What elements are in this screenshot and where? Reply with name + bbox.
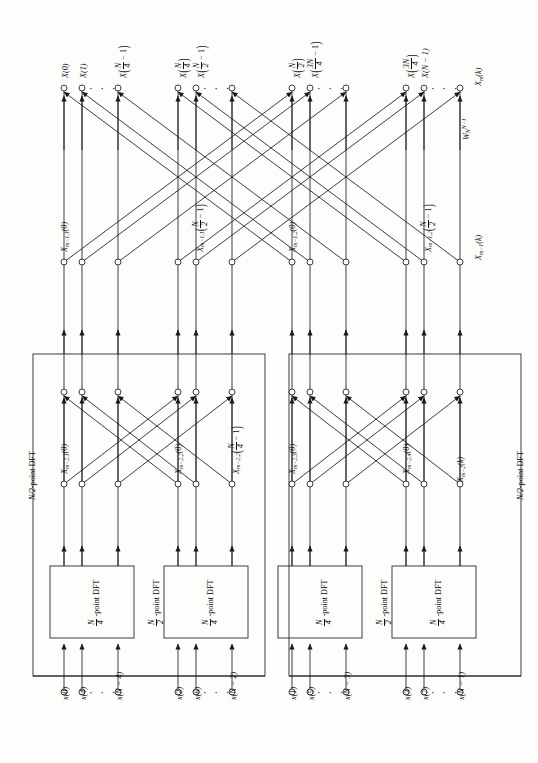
fft-flow-graph-figure: · · · · · · · · · · · · · · · · · · · · …	[0, 0, 538, 763]
ellipsis-input-3: · · ·	[317, 686, 346, 698]
quarter-dft-label-1: N4 -point DFT	[88, 579, 106, 626]
twiddle-label: WNN−1	[461, 118, 471, 140]
stage-m2-label-c: Xm−2,2(N4 − 1)	[228, 426, 246, 474]
input-label-xNm4: x(N − 4)	[115, 672, 124, 700]
stage-m2-label-f: Xm−2(k)	[456, 457, 466, 482]
output-label-XN2: X(N2)	[289, 58, 307, 78]
input-label-x1: x(1)	[289, 687, 298, 700]
output-label-X3N4: X(3N4)	[403, 54, 421, 78]
half-dft-outer-label-2: N/2-point DFT	[516, 451, 525, 500]
output-label-X0: X(0)	[61, 63, 70, 78]
butterfly-stage-B-arrows	[64, 92, 460, 262]
output-label-XN4: X(N4)	[175, 58, 193, 78]
stage1-trunks	[64, 262, 460, 392]
ellipsis-input-4: · · ·	[431, 686, 460, 698]
stage-m1-label-e: Xm−1(k)	[474, 235, 484, 260]
stage-m1-label-b: Xm−1,1(N2 − 1)	[192, 204, 210, 252]
ellipsis-output-4: · · ·	[431, 82, 460, 94]
input-label-x5: x(5)	[307, 687, 316, 700]
quarter-dft-label-4: N4 -point DFT	[430, 579, 448, 626]
input-label-x7: x(7)	[421, 687, 430, 700]
ellipsis-input-1: · · ·	[89, 686, 118, 698]
ellipsis-output-1: · · ·	[89, 82, 118, 94]
input-label-x4: x(4)	[79, 687, 88, 700]
output-label-XNm1: X(N − 1)	[421, 48, 430, 78]
butterfly-stage-A-arrows	[64, 396, 460, 484]
input-label-xNm3: x(N − 3)	[343, 672, 352, 700]
input-label-x3: x(3)	[403, 687, 412, 700]
quarter-dft-label-3: N4 -point DFT	[316, 579, 334, 626]
stage-m1-label-d: Xm−1,2(N2 − 1)	[420, 204, 438, 252]
ellipsis-output-2: · · ·	[203, 82, 232, 94]
half-dft-box-1	[33, 354, 265, 676]
half-dft-box-2	[289, 354, 521, 676]
graph-nodes	[61, 85, 463, 695]
stage-m2-label-d: Xm−2,3(0)	[288, 444, 298, 474]
input-label-x2: x(2)	[175, 687, 184, 700]
output-label-X3N4m1: X(3N4 − 1)	[307, 41, 325, 78]
half-dft-inner-label-1: N2 -point DFT	[148, 579, 166, 626]
stage-m2-label-b: Xm−2,2(0)	[174, 444, 184, 474]
flow-graph-canvas	[0, 0, 538, 763]
stage2-trunk-arrows	[64, 546, 460, 566]
stage-m1-label-a: Xm−1,1(0)	[60, 222, 70, 252]
input-label-xNm2: x(N − 2)	[229, 672, 238, 700]
stage-m1-label-c: Xm−1,2(0)	[288, 222, 298, 252]
stage-m2-label-e: Xm−2,4(0)	[402, 444, 412, 474]
stage2-trunks	[64, 484, 460, 566]
input-label-xNm1: x(N − 1)	[457, 672, 466, 700]
output-label-XN4m1: X(N4 − 1)	[115, 45, 133, 78]
ellipsis-input-2: · · ·	[203, 686, 232, 698]
output-stage-label: Xm(k)	[474, 68, 484, 86]
input-label-x6: x(6)	[193, 687, 202, 700]
output-label-XN2m1: X(N2 − 1)	[193, 45, 211, 78]
stage-m2-label-a: Xm−2,1(0)	[60, 444, 70, 474]
input-label-x0: x(0)	[61, 687, 70, 700]
ellipsis-output-3: · · ·	[317, 82, 346, 94]
quarter-dft-label-2: N4 -point DFT	[202, 579, 220, 626]
output-label-X1: X(1)	[79, 63, 88, 78]
stage1-trunk-arrows	[64, 330, 460, 354]
half-dft-outer-label-1: N/2-point DFT	[28, 451, 37, 500]
half-dft-inner-label-2: N2 -point DFT	[376, 579, 394, 626]
